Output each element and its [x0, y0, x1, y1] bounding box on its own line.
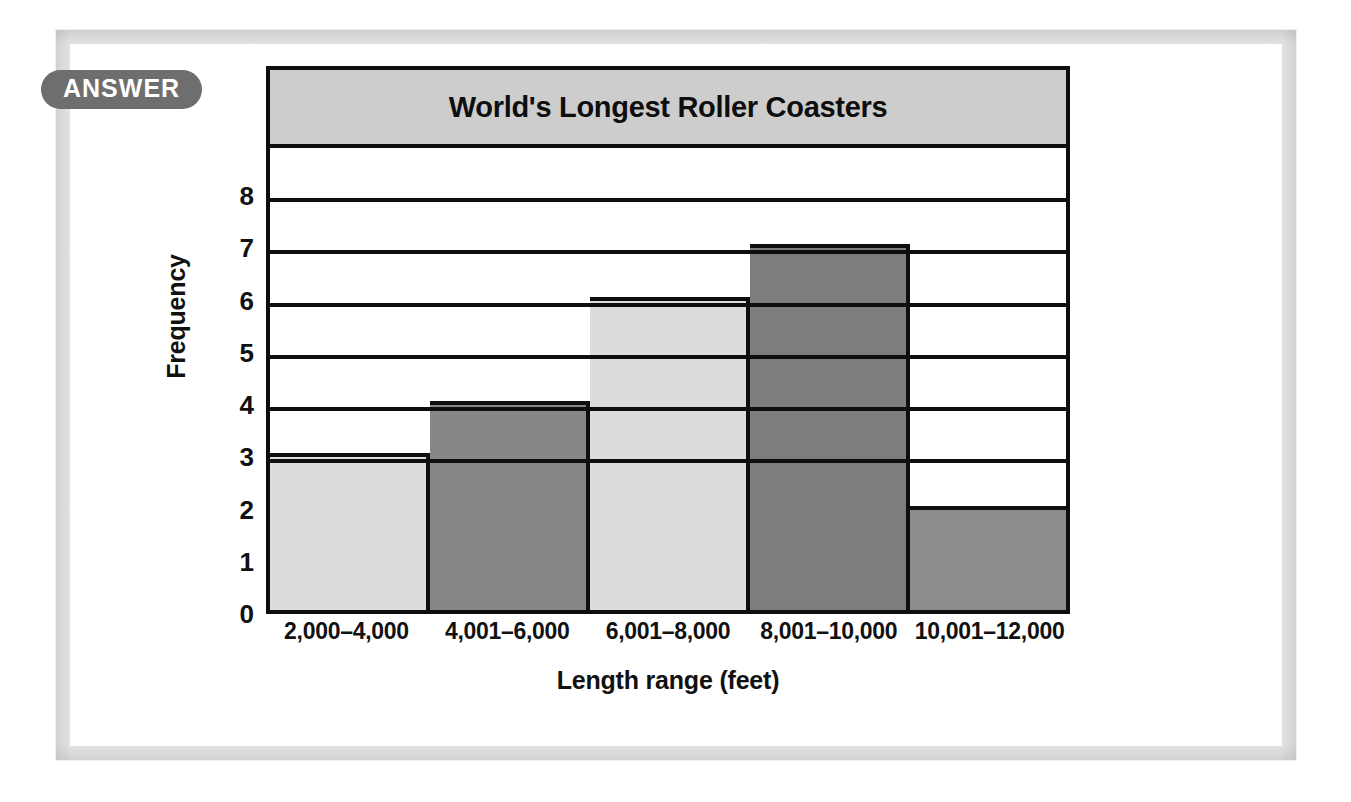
- y-axis-tick-8: 8: [218, 183, 254, 209]
- x-axis-tick-1: 2,000–4,000: [266, 618, 427, 645]
- bar-4: [750, 244, 910, 610]
- bar-3: [590, 297, 750, 610]
- y-axis-tick-7: 7: [218, 235, 254, 261]
- plot-area: [270, 148, 1066, 610]
- bar-1: [270, 453, 430, 610]
- chart-title: World's Longest Roller Coasters: [449, 91, 888, 124]
- answer-badge: ANSWER: [41, 70, 202, 109]
- gridline-5: [270, 355, 1066, 359]
- plot-frame: World's Longest Roller Coasters: [266, 66, 1070, 614]
- x-axis-tick-labels: 2,000–4,0004,001–6,0006,001–8,0008,001–1…: [266, 618, 1070, 645]
- x-axis-tick-2: 4,001–6,000: [427, 618, 588, 645]
- x-axis-title: Length range (feet): [266, 666, 1070, 695]
- gridline-7: [270, 250, 1066, 254]
- y-axis-tick-6: 6: [218, 288, 254, 314]
- x-axis-tick-3: 6,001–8,000: [588, 618, 749, 645]
- gridline-6: [270, 303, 1066, 307]
- y-axis-tick-5: 5: [218, 340, 254, 366]
- histogram-chart: Frequency 12345678 0 World's Longest Rol…: [190, 66, 1070, 666]
- y-axis-tick-zero: 0: [218, 601, 254, 627]
- bars-layer: [270, 148, 1066, 610]
- y-axis-tick-1: 1: [218, 549, 254, 575]
- gridline-4: [270, 407, 1066, 411]
- x-axis-tick-5: 10,001–12,000: [909, 618, 1070, 645]
- y-axis-tick-labels: 12345678: [218, 66, 254, 614]
- x-axis-tick-4: 8,001–10,000: [748, 618, 909, 645]
- y-axis-tick-4: 4: [218, 392, 254, 418]
- chart-title-band: World's Longest Roller Coasters: [270, 70, 1066, 148]
- y-axis-tick-3: 3: [218, 444, 254, 470]
- y-axis-title: Frequency: [162, 197, 191, 437]
- bar-5: [910, 506, 1066, 610]
- y-axis-tick-2: 2: [218, 497, 254, 523]
- gridline-8: [270, 198, 1066, 202]
- bar-2: [430, 401, 590, 610]
- gridline-3: [270, 459, 1066, 463]
